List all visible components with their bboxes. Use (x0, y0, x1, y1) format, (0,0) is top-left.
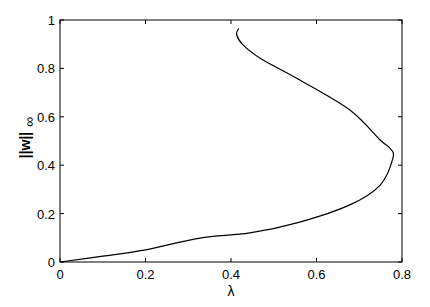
x-tick-label: 0 (56, 267, 63, 282)
y-tick-label: 0.8 (37, 61, 55, 76)
y-tick-label: 0.6 (37, 110, 55, 125)
x-tick-label: 0.4 (222, 267, 240, 282)
x-axis-label: λ (228, 283, 235, 299)
svg-text:||w||: ||w|| (17, 132, 33, 159)
x-tick-label: 0.6 (307, 267, 325, 282)
y-tick-label: 0.2 (37, 207, 55, 222)
y-tick-label: 0.4 (37, 158, 55, 173)
plot-area (60, 20, 402, 262)
y-axis-label: ||w|| ∞ (17, 117, 37, 158)
y-tick-label: 0 (48, 255, 55, 270)
x-tick-label: 0.8 (393, 267, 411, 282)
svg-text:∞: ∞ (21, 117, 37, 127)
chart: 00.20.40.60.8 00.20.40.60.81 λ ||w|| ∞ (0, 0, 430, 307)
y-tick-label: 1 (48, 13, 55, 28)
x-tick-label: 0.2 (136, 267, 154, 282)
